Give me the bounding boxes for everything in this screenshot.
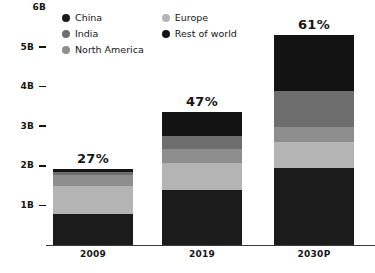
- y-axis-tick: 1B: [0, 199, 46, 211]
- legend-item[interactable]: Europe: [162, 11, 237, 24]
- legend-dot-icon: [162, 14, 170, 22]
- bar-segment[interactable]: [162, 149, 242, 163]
- y-axis-tick-label: 6B: [32, 3, 46, 12]
- bar-percentage-label: 61%: [274, 17, 354, 32]
- bar-segment[interactable]: [162, 112, 242, 136]
- bar-segment[interactable]: [274, 142, 354, 168]
- bar-segment[interactable]: [162, 136, 242, 149]
- legend-item-label: North America: [75, 45, 144, 55]
- y-axis-tick-label: 4B: [20, 82, 34, 91]
- legend-dot-icon: [62, 46, 70, 54]
- legend-column: EuropeRest of world: [162, 11, 237, 56]
- bar-segment[interactable]: [162, 190, 242, 245]
- legend-item[interactable]: China: [62, 11, 144, 24]
- stacked-bar-chart: 6B5B4B3B2B1B 27%200947%201961%2030P Chin…: [0, 0, 375, 273]
- legend-item-label: India: [75, 29, 98, 39]
- x-axis-label: 2009: [53, 249, 133, 259]
- legend-dot-icon: [162, 30, 170, 38]
- y-axis-tick-label: 5B: [20, 43, 34, 52]
- legend-item[interactable]: India: [62, 27, 144, 40]
- x-axis-label: 2019: [162, 249, 242, 259]
- y-axis-tick: 3B: [0, 120, 46, 132]
- bar-segment[interactable]: [53, 172, 133, 175]
- bar-percentage-label: 27%: [53, 151, 133, 166]
- bar-segment[interactable]: [162, 163, 242, 189]
- bar-segment[interactable]: [53, 186, 133, 215]
- stacked-bar[interactable]: [274, 35, 354, 245]
- bar-segment[interactable]: [274, 91, 354, 127]
- chart-legend: ChinaIndiaNorth AmericaEuropeRest of wor…: [62, 11, 237, 56]
- y-axis-tick: 6B: [0, 1, 46, 13]
- x-axis-baseline: [46, 245, 375, 246]
- y-axis-tick-mark: [39, 46, 46, 48]
- y-axis-tick-mark: [39, 165, 46, 167]
- bar-segment[interactable]: [274, 168, 354, 245]
- y-axis-tick: 2B: [0, 160, 46, 172]
- bar-segment[interactable]: [53, 175, 133, 186]
- y-axis-tick-label: 3B: [20, 122, 34, 131]
- y-axis: 6B5B4B3B2B1B: [0, 0, 46, 273]
- bar-segment[interactable]: [274, 35, 354, 90]
- y-axis-tick: 5B: [0, 41, 46, 53]
- bar-segment[interactable]: [274, 127, 354, 142]
- y-axis-tick-mark: [39, 86, 46, 88]
- stacked-bar[interactable]: [162, 112, 242, 245]
- y-axis-tick-label: 2B: [20, 161, 34, 170]
- legend-dot-icon: [62, 14, 70, 22]
- legend-dot-icon: [62, 30, 70, 38]
- y-axis-tick-mark: [39, 205, 46, 207]
- legend-item-label: Rest of world: [175, 29, 237, 39]
- legend-item[interactable]: Rest of world: [162, 27, 237, 40]
- y-axis-tick-mark: [39, 125, 46, 127]
- bar-segment[interactable]: [53, 214, 133, 245]
- x-axis-label: 2030P: [274, 249, 354, 259]
- y-axis-tick-label: 1B: [20, 201, 34, 210]
- legend-item-label: China: [75, 13, 102, 23]
- y-axis-tick: 4B: [0, 81, 46, 93]
- bar-segment[interactable]: [53, 169, 133, 172]
- legend-column: ChinaIndiaNorth America: [62, 11, 144, 56]
- legend-item[interactable]: North America: [62, 43, 144, 56]
- stacked-bar[interactable]: [53, 169, 133, 245]
- bar-percentage-label: 47%: [162, 94, 242, 109]
- legend-item-label: Europe: [175, 13, 208, 23]
